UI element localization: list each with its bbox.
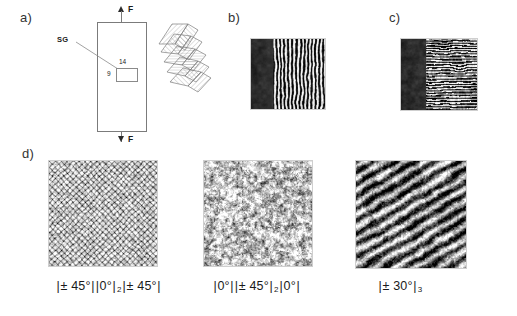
strain-gauge-label: SG xyxy=(57,35,68,44)
caption-bar: | xyxy=(157,279,161,293)
micrograph-d3 xyxy=(355,160,467,269)
micrograph-d2 xyxy=(203,160,313,267)
caption-angle: ± 45° xyxy=(239,279,269,293)
force-arrow-down-icon xyxy=(118,136,124,142)
panel-label-a: a) xyxy=(20,10,32,25)
caption-angle: 0° xyxy=(100,279,112,293)
micrograph-b xyxy=(250,38,326,110)
gauge-dimension-height: 9 xyxy=(107,70,111,77)
specimen-schematic: F SG 14 9 F xyxy=(60,2,220,147)
caption-angle: 0° xyxy=(217,279,229,293)
caption-angle: ± 30° xyxy=(382,279,412,293)
caption-angle: 0° xyxy=(284,279,296,293)
caption-layup-1: |± 45°||0°|2|± 45°| xyxy=(56,279,161,294)
panel-label-d: d) xyxy=(22,146,34,161)
panel-label-b: b) xyxy=(228,10,240,25)
caption-angle: ± 45° xyxy=(60,279,90,293)
gauge-dimension-width: 14 xyxy=(119,58,126,65)
caption-bar: | xyxy=(296,279,300,293)
caption-layup-3: |± 30°|3 xyxy=(378,279,423,294)
micrograph-d1 xyxy=(48,160,158,267)
micrograph-c xyxy=(400,38,478,111)
caption-layup-2: |0°||± 45°|2|0°| xyxy=(213,279,300,294)
panel-label-c: c) xyxy=(389,10,400,25)
figure-root: a) b) c) d) F SG 14 9 F xyxy=(0,0,517,316)
laminate-stack-diagram xyxy=(155,22,217,98)
force-label-bottom: F xyxy=(128,134,133,144)
strain-gauge-box xyxy=(116,68,138,82)
caption-subscript: 3 xyxy=(417,285,423,294)
caption-angle: ± 45° xyxy=(127,279,157,293)
